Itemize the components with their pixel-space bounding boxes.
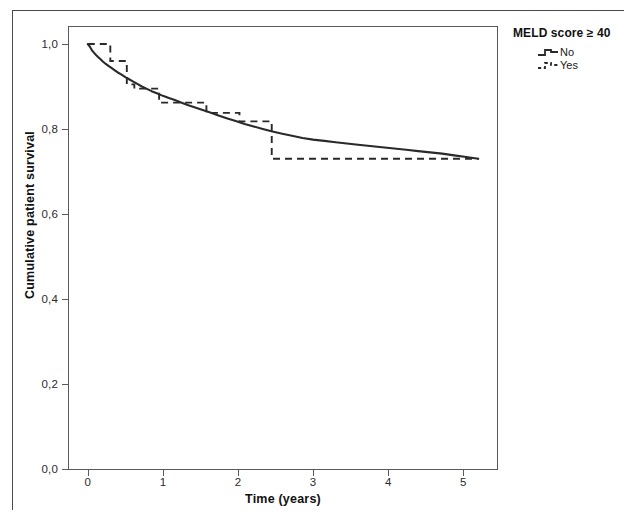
y-tick-label: 1,0 bbox=[41, 38, 58, 50]
x-tick-mark bbox=[238, 470, 239, 476]
y-tick-label: 0,6 bbox=[41, 208, 58, 220]
x-tick-mark bbox=[163, 470, 164, 476]
x-tick-mark bbox=[313, 470, 314, 476]
x-axis-title: Time (years) bbox=[68, 492, 498, 506]
x-tick-label: 3 bbox=[310, 476, 316, 488]
legend-entries: No Yes bbox=[537, 46, 631, 72]
y-tick-label: 0,8 bbox=[41, 123, 58, 135]
plot-area bbox=[68, 26, 498, 470]
figure-container: Cumulative patient survival 0,00,20,40,6… bbox=[0, 0, 635, 518]
x-tick-label: 4 bbox=[385, 476, 391, 488]
y-axis-title: Cumulative patient survival bbox=[23, 15, 37, 415]
legend: MELD score ≥ 40 No Yes bbox=[513, 26, 631, 72]
legend-item-yes: Yes bbox=[537, 59, 631, 72]
figure-border-left bbox=[12, 10, 13, 510]
x-tick-label: 1 bbox=[160, 476, 166, 488]
figure-border-top bbox=[12, 10, 624, 11]
legend-title: MELD score ≥ 40 bbox=[513, 26, 631, 40]
legend-swatch-solid bbox=[537, 47, 559, 58]
y-tick-label: 0,2 bbox=[41, 378, 58, 390]
y-tick-label: 0,4 bbox=[41, 293, 58, 305]
legend-label-no: No bbox=[560, 47, 574, 58]
x-tick-mark bbox=[88, 470, 89, 476]
series-line-yes bbox=[88, 44, 478, 159]
legend-item-no: No bbox=[537, 46, 631, 59]
x-tick-label: 0 bbox=[85, 476, 91, 488]
x-tick-label: 5 bbox=[460, 476, 466, 488]
y-tick-label: 0,0 bbox=[41, 463, 58, 475]
legend-label-yes: Yes bbox=[560, 60, 578, 71]
legend-swatch-dashed bbox=[537, 60, 559, 71]
x-tick-mark bbox=[463, 470, 464, 476]
series-line-no bbox=[88, 44, 478, 159]
survival-curves bbox=[69, 27, 497, 469]
x-tick-mark bbox=[388, 470, 389, 476]
x-tick-label: 2 bbox=[235, 476, 241, 488]
